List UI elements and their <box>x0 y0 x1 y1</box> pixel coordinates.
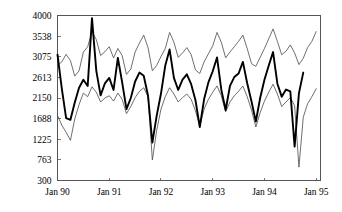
y-tick-label: 1225 <box>33 135 52 145</box>
time-series-chart: 3007631225168821502613307535384000 Jan 9… <box>0 0 342 212</box>
x-tick-label: Jan 91 <box>97 187 122 197</box>
chart-container: 3007631225168821502613307535384000 Jan 9… <box>0 0 342 212</box>
y-tick-label: 2613 <box>33 73 52 83</box>
y-tick-label: 300 <box>37 176 52 186</box>
y-tick-label: 3538 <box>33 32 52 42</box>
x-tick-label: Jan 92 <box>149 187 174 197</box>
x-tick-label: Jan 93 <box>200 187 225 197</box>
y-tick-label: 763 <box>37 155 52 165</box>
x-tick-label: Jan 95 <box>304 187 329 197</box>
y-tick-label: 3075 <box>33 52 52 62</box>
x-tick-label: Jan 90 <box>45 187 70 197</box>
y-tick-label: 1688 <box>33 114 52 124</box>
y-tick-label: 4000 <box>33 11 52 21</box>
x-tick-label: Jan 94 <box>252 187 277 197</box>
y-tick-label: 2150 <box>33 93 52 103</box>
